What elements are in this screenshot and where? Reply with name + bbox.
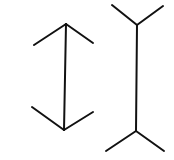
fin-line (32, 107, 64, 130)
illusion-svg (0, 0, 174, 160)
figure-arrowheads-outward (106, 5, 164, 151)
fin-line (106, 131, 136, 151)
fin-line (64, 112, 93, 130)
fin-line (137, 6, 163, 25)
illusion-canvas (0, 0, 174, 160)
fin-line (34, 24, 66, 45)
figure-arrowheads-inward (32, 24, 93, 130)
shaft-line (64, 24, 66, 130)
fin-line (136, 131, 164, 151)
shaft-line (136, 25, 137, 131)
fin-line (112, 5, 137, 25)
fin-line (66, 24, 93, 43)
